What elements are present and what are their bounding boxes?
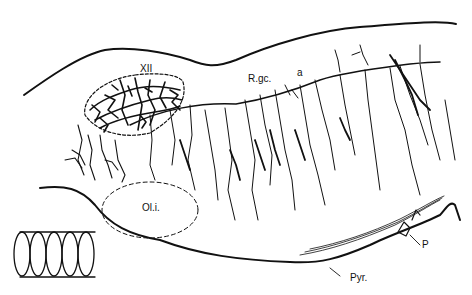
dorsal-contour xyxy=(24,22,456,95)
label-xii: XII xyxy=(140,64,152,74)
label-oli: Ol.i. xyxy=(142,203,160,213)
line-drawing xyxy=(0,0,472,295)
p-leader xyxy=(410,235,420,245)
pyr-leader xyxy=(330,268,340,276)
label-p: P xyxy=(422,240,429,250)
anatomical-figure: XII R.gc. a Ol.i. Pyr. P xyxy=(0,0,472,295)
label-a: a xyxy=(297,68,303,78)
xii-arborization xyxy=(90,78,182,132)
label-rgc: R.gc. xyxy=(248,74,271,84)
label-pyr: Pyr. xyxy=(350,273,367,283)
stacked-slices-icon xyxy=(14,232,95,277)
ventral-contour xyxy=(40,187,460,262)
